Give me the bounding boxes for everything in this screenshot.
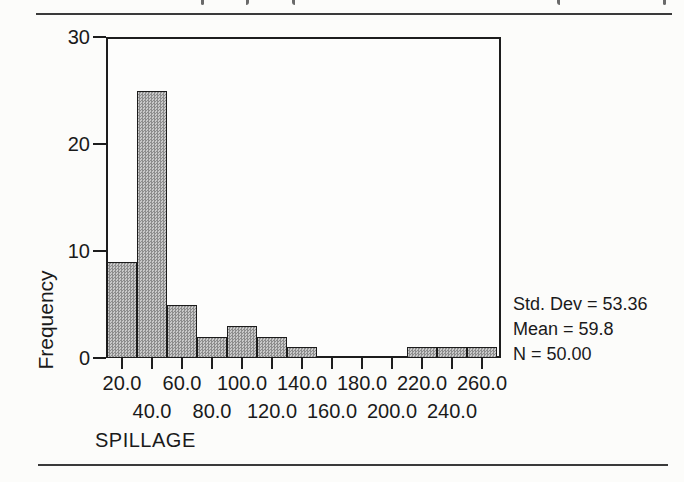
x-tick: [271, 358, 273, 369]
scanned-figure-page: 20.040.060.080.0100.0120.0140.0160.0180.…: [0, 0, 684, 482]
stat-std-dev: Std. Dev = 53.36: [513, 292, 648, 317]
x-tick-label: 20.0: [90, 372, 154, 394]
bottom-horizontal-rule: [38, 464, 668, 466]
x-tick-label: 140.0: [270, 372, 334, 394]
x-tick-label: 180.0: [330, 372, 394, 394]
stat-n: N = 50.00: [513, 342, 648, 367]
stat-mean: Mean = 59.8: [513, 317, 648, 342]
y-tick: [93, 250, 106, 252]
x-tick: [241, 358, 243, 369]
x-tick: [421, 358, 423, 369]
y-tick-label: 10: [40, 239, 90, 263]
y-tick: [93, 357, 106, 359]
x-tick-label: 120.0: [240, 400, 304, 422]
x-tick: [481, 358, 483, 369]
x-tick-label: 260.0: [450, 372, 514, 394]
x-tick-label: 160.0: [300, 400, 364, 422]
x-tick: [451, 358, 453, 369]
histogram-bar-80.0: [197, 337, 227, 358]
histogram-bar-100.0: [227, 326, 257, 358]
x-axis-title: SPILLAGE: [95, 429, 196, 452]
x-tick-label: 100.0: [210, 372, 274, 394]
y-axis-title: Frequency: [34, 270, 58, 370]
spillage-histogram: 20.040.060.080.0100.0120.0140.0160.0180.…: [0, 0, 684, 482]
histogram-bar-220.0: [407, 347, 437, 358]
histogram-bar-240.0: [437, 347, 467, 358]
x-tick: [361, 358, 363, 369]
x-tick: [181, 358, 183, 369]
histogram-bar-260.0: [467, 347, 497, 358]
x-tick: [391, 358, 393, 369]
y-tick: [93, 36, 106, 38]
x-tick-label: 220.0: [390, 372, 454, 394]
x-tick: [211, 358, 213, 369]
stats-annotation: Std. Dev = 53.36 Mean = 59.8 N = 50.00: [513, 292, 648, 367]
x-tick-label: 60.0: [150, 372, 214, 394]
histogram-bar-60.0: [167, 305, 197, 359]
x-tick: [331, 358, 333, 369]
x-tick-label: 80.0: [180, 400, 244, 422]
y-tick-label: 30: [40, 25, 90, 49]
y-tick: [93, 143, 106, 145]
x-tick-label: 240.0: [420, 400, 484, 422]
histogram-bar-20.0: [107, 262, 137, 358]
histogram-bar-40.0: [137, 91, 167, 359]
x-tick: [121, 358, 123, 369]
histogram-bar-140.0: [287, 347, 317, 358]
x-tick: [151, 358, 153, 369]
x-tick-label: 40.0: [120, 400, 184, 422]
y-tick-label: 20: [40, 132, 90, 156]
histogram-bar-120.0: [257, 337, 287, 358]
x-tick: [301, 358, 303, 369]
x-tick-label: 200.0: [360, 400, 424, 422]
